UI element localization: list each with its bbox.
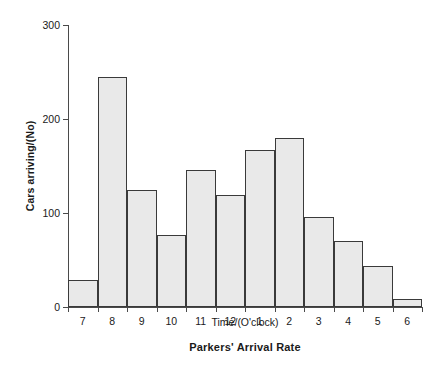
bar (334, 241, 364, 307)
bar (275, 138, 305, 307)
bar (304, 217, 334, 307)
y-tick-mark (63, 213, 68, 214)
bar (157, 235, 187, 307)
bar (245, 150, 275, 307)
plot-area: 0100200300 789101112123456 (68, 25, 422, 307)
chart-figure: Cars arriving/(No) 0100200300 7891011121… (0, 0, 447, 370)
y-tick-label: 200 (42, 113, 60, 125)
x-tick-mark (422, 307, 423, 312)
x-axis-label: Time/(O'clock) (68, 316, 422, 328)
bar (68, 280, 98, 307)
x-tick-mark (186, 307, 187, 312)
x-tick-mark (157, 307, 158, 312)
y-tick-mark (63, 25, 68, 26)
y-axis-spine (68, 25, 69, 308)
chart-title: Parkers' Arrival Rate (68, 341, 422, 353)
bar (127, 190, 157, 308)
x-tick-mark (334, 307, 335, 312)
bar (363, 266, 393, 307)
x-tick-mark (304, 307, 305, 312)
bar (186, 170, 216, 307)
x-tick-mark (127, 307, 128, 312)
y-tick-mark (63, 119, 68, 120)
x-tick-mark (245, 307, 246, 312)
bar (98, 77, 128, 307)
x-tick-mark (216, 307, 217, 312)
x-tick-mark (98, 307, 99, 312)
x-tick-mark (363, 307, 364, 312)
x-tick-mark (68, 307, 69, 312)
x-tick-mark (275, 307, 276, 312)
y-tick-label: 0 (54, 301, 60, 313)
bar (393, 299, 423, 307)
y-tick-label: 300 (42, 19, 60, 31)
y-tick-label: 100 (42, 207, 60, 219)
y-axis-label: Cars arriving/(No) (22, 25, 38, 307)
x-tick-mark (393, 307, 394, 312)
bar (216, 195, 246, 307)
